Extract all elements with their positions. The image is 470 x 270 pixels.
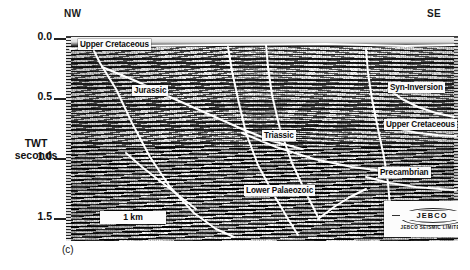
annotation-lower-palaeozoic: Lower Palaeozoic	[244, 185, 315, 196]
annotation-upper-cretaceous-left: Upper Cretaceous	[78, 39, 151, 50]
figure-caption: (c)	[62, 245, 74, 255]
annotation-jurassic: Jurassic	[132, 85, 168, 96]
scale-bar: 1 km	[100, 211, 166, 224]
seismic-figure: NW SE 0.0 0.5 1.0 1.5 TWT seconds	[0, 0, 470, 270]
jebco-ellipse-icon: JEBCO	[400, 208, 458, 224]
axis-tick-0: 0.0	[0, 38, 66, 39]
scale-bar-label: 1 km	[123, 213, 143, 222]
seismic-panel: Upper Cretaceous Jurassic Syn-Inversion …	[66, 36, 458, 241]
annotation-triassic: Triassic	[262, 130, 296, 141]
fault-nw-branch	[126, 153, 196, 209]
horizon-precambrian	[366, 177, 456, 190]
axis-tick-label: 0.5	[37, 91, 52, 102]
orientation-label-se: SE	[427, 9, 441, 19]
axis-tick-1: 0.5	[0, 98, 66, 99]
jebco-wordmark: JEBCO	[400, 211, 458, 220]
axis-tick-label: 0.0	[37, 31, 52, 42]
fault-se-branch	[388, 89, 454, 117]
annotation-syn-inversion: Syn-Inversion	[388, 82, 445, 93]
axis-title-line2: seconds	[8, 150, 64, 162]
axis-tick-label: 1.5	[37, 211, 52, 222]
jebco-logo: JEBCO JEBCO SEISMIC LIMITED	[384, 201, 458, 237]
orientation-label-nw: NW	[64, 9, 81, 19]
axis-tick-mark	[54, 98, 66, 100]
annotation-precambrian: Precambrian	[378, 167, 431, 178]
twt-axis: 0.0 0.5 1.0 1.5 TWT seconds	[0, 30, 66, 230]
fault-nw-major	[94, 51, 234, 237]
axis-tick-3: 1.5	[0, 218, 66, 219]
fault-deep-se	[318, 189, 366, 219]
axis-tick-mark	[54, 38, 66, 40]
axis-tick-mark	[54, 218, 66, 220]
annotation-upper-cretaceous-right: Upper Cretaceous	[384, 119, 457, 130]
axis-title-line1: TWT	[8, 138, 64, 150]
axis-title: TWT seconds	[8, 138, 64, 161]
